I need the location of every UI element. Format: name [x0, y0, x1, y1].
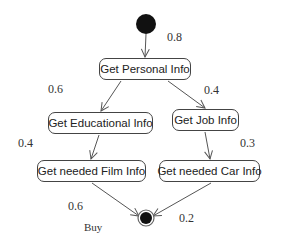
edge-label-job-car: 0.3: [240, 136, 255, 151]
edge-label-car-end: 0.2: [179, 211, 194, 226]
activity-diagram: Get Personal Info Get Educational Info G…: [0, 0, 281, 246]
edge-personal-to-educational: [101, 81, 121, 111]
edge-label-personal-educational: 0.6: [48, 82, 63, 97]
edge-educational-to-film: [91, 135, 99, 159]
edge-label-film-end: 0.6: [68, 199, 83, 214]
activity-get-needed-film-info[interactable]: Get needed Film Info: [37, 160, 146, 182]
edge-job-to-car: [205, 132, 210, 159]
edge-personal-to-job: [168, 81, 205, 108]
activity-get-job-info[interactable]: Get Job Info: [172, 109, 239, 131]
edge-film-to-end: [92, 183, 139, 216]
edge-start-to-personal: [145, 34, 146, 57]
end-node: [140, 212, 152, 224]
start-node: [136, 14, 156, 34]
edge-label-buy: Buy: [84, 221, 102, 233]
edge-label-personal-job: 0.4: [204, 83, 219, 98]
activity-get-personal-info[interactable]: Get Personal Info: [99, 58, 191, 80]
activity-get-educational-info[interactable]: Get Educational Info: [48, 112, 153, 134]
activity-get-needed-car-info[interactable]: Get needed Car Info: [159, 160, 260, 182]
edge-label-educational-film: 0.4: [18, 136, 33, 151]
edge-label-start-personal: 0.8: [167, 30, 182, 45]
